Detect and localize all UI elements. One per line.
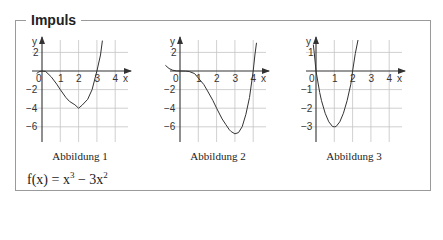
x-tick: 3 <box>369 73 375 84</box>
y-axis-label: y <box>32 36 37 47</box>
figure-1: y 2 −2 −4 −6 0 1 2 3 4 x Abbildung 1 <box>26 36 131 162</box>
figure-3: y 1 −1 −2 −3 0 1 2 3 4 x Abbildung 3 <box>301 36 405 162</box>
x-tick: 1 <box>332 73 338 84</box>
x-tick: 4 <box>387 73 393 84</box>
formula-equals: = <box>48 172 63 187</box>
y-tick: 2 <box>33 47 39 58</box>
origin-label: 0 <box>309 73 315 84</box>
y-tick: 1 <box>308 47 314 58</box>
curve-2 <box>165 43 256 134</box>
formula-lhs: f(x) <box>27 172 48 187</box>
y-axis-label: y <box>170 36 175 47</box>
origin-label: 0 <box>36 73 42 84</box>
y-tick: −2 <box>301 103 313 114</box>
figure-caption: Abbildung 1 <box>52 150 107 162</box>
y-tick: −4 <box>164 103 176 114</box>
y-tick: −2 <box>26 84 38 95</box>
grid <box>170 40 266 142</box>
curve-1 <box>37 41 103 109</box>
formula-term2-exponent: 2 <box>103 170 108 180</box>
x-tick: 3 <box>95 73 101 84</box>
grid <box>32 40 128 142</box>
y-tick: −4 <box>26 103 38 114</box>
x-tick: 4 <box>251 73 257 84</box>
formula-minus-coefficient: − 3 <box>74 172 96 187</box>
figure-caption: Abbildung 2 <box>190 150 245 162</box>
x-tick: 2 <box>76 73 82 84</box>
y-tick: −6 <box>26 121 38 132</box>
x-tick: 1 <box>196 73 202 84</box>
x-tick: 2 <box>214 73 220 84</box>
x-tick: 1 <box>58 73 64 84</box>
x-axis-label: x <box>261 73 266 84</box>
x-tick: 2 <box>350 73 356 84</box>
x-axis-label: x <box>397 73 402 84</box>
grid <box>306 40 402 142</box>
y-axis-label: y <box>306 36 311 47</box>
x-axis-label: x <box>123 73 128 84</box>
x-tick: 3 <box>233 73 239 84</box>
y-tick: 2 <box>171 47 177 58</box>
y-tick: −1 <box>301 84 313 95</box>
function-formula: f(x) = x3 − 3x2 <box>27 170 108 188</box>
figure-caption: Abbildung 3 <box>326 150 382 162</box>
y-tick: −3 <box>301 121 313 132</box>
y-tick: −2 <box>164 84 176 95</box>
x-tick: 4 <box>113 73 119 84</box>
y-tick: −6 <box>164 121 176 132</box>
figure-2: y 2 −2 −4 −6 0 1 2 3 4 x Abbildung 2 <box>164 36 269 162</box>
formula-term1-base: x <box>63 172 70 187</box>
origin-label: 0 <box>173 73 179 84</box>
